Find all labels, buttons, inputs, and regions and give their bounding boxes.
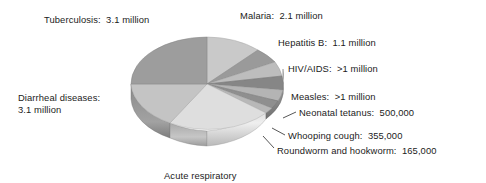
pie-chart-figure: Tuberculosis: 3.1 million Malaria: 2.1 m…	[0, 0, 486, 183]
leader-line-roundworm-hookworm	[263, 136, 274, 148]
slice-tuberculosis[interactable]	[131, 37, 207, 84]
leader-line-neonatal-tetanus	[283, 112, 296, 118]
label-acute-respiratory: Acute respiratory	[164, 170, 237, 182]
label-tuberculosis: Tuberculosis: 3.1 million	[44, 14, 149, 26]
leader-line-whooping-cough	[272, 128, 285, 135]
label-hiv-aids: HIV/AIDS: >1 million	[288, 63, 378, 75]
pie-top-face	[131, 37, 283, 129]
label-measles: Measles: >1 million	[291, 91, 376, 103]
label-neonatal-tetanus: Neonatal tetanus: 500,000	[299, 107, 414, 119]
label-whooping-cough: Whooping cough: 355,000	[288, 130, 402, 142]
label-roundworm-hookworm: Roundworm and hookworm: 165,000	[277, 145, 437, 157]
label-hepatitis-b: Hepatitis B: 1.1 million	[278, 37, 376, 49]
label-diarrheal-diseases: Diarrheal diseases: 3.1 million	[18, 92, 100, 115]
label-malaria: Malaria: 2.1 million	[240, 10, 323, 22]
